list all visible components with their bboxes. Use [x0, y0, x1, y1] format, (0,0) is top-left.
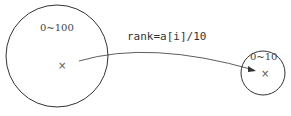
small-circle-label: 0~10 — [250, 51, 277, 62]
diagram: 0~100 × 0~10 × rank=a[i]/10 — [0, 0, 291, 116]
diagram-shapes — [0, 0, 291, 116]
mapping-arrow — [79, 52, 254, 70]
big-circle-label: 0~100 — [40, 22, 74, 33]
small-circle-center-marker: × — [261, 68, 269, 79]
arrowhead-icon — [248, 66, 256, 72]
arrow-label: rank=a[i]/10 — [127, 30, 206, 43]
big-circle — [6, 5, 108, 107]
big-circle-center-marker: × — [58, 60, 66, 71]
